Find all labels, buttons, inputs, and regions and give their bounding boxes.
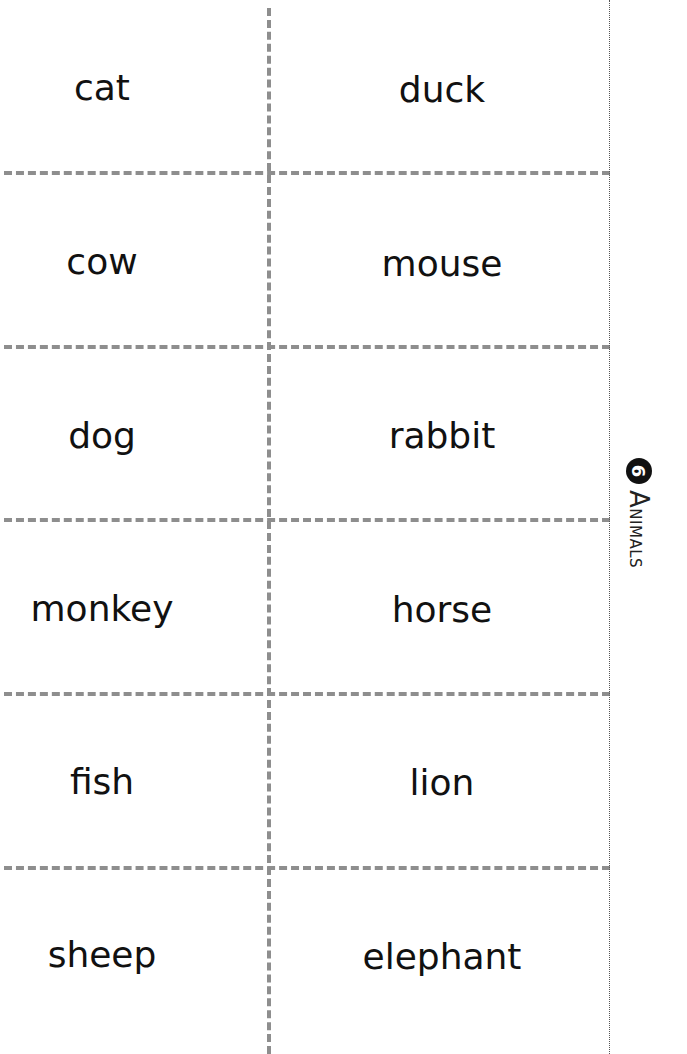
- section-number-badge: 6: [626, 458, 652, 484]
- horizontal-cut-line: [4, 171, 610, 175]
- horizontal-cut-line: [4, 345, 610, 349]
- vertical-cut-line: [267, 8, 271, 1054]
- card-word: dog: [0, 416, 232, 456]
- card-word: sheep: [0, 935, 232, 975]
- card-word: cat: [0, 68, 232, 108]
- section-tab: 6 Animals: [624, 458, 654, 598]
- card-word: elephant: [312, 937, 572, 977]
- card-word: lion: [312, 763, 572, 803]
- card-word: cow: [0, 242, 232, 282]
- horizontal-cut-line: [4, 518, 610, 522]
- card-word: duck: [312, 70, 572, 110]
- card-word: mouse: [312, 244, 572, 284]
- horizontal-cut-line: [4, 692, 610, 696]
- fold-line: [609, 0, 610, 1054]
- card-word: monkey: [0, 589, 232, 629]
- card-word: fish: [0, 762, 232, 802]
- card-word: horse: [312, 590, 572, 630]
- horizontal-cut-line: [4, 866, 610, 870]
- section-title: Animals: [624, 490, 654, 568]
- card-word: rabbit: [312, 416, 572, 456]
